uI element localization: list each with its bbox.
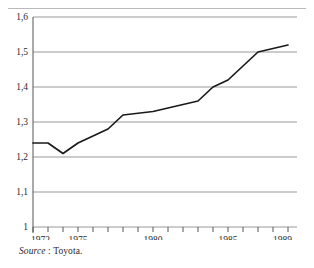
- y-axis-tick-label: 1,6: [16, 12, 28, 22]
- source-value: Toyota.: [53, 246, 82, 256]
- x-axis-tick-label: 1975: [69, 235, 88, 240]
- y-axis-tick-label: 1,3: [16, 117, 28, 127]
- y-axis-tick-label: 1,1: [16, 187, 28, 197]
- y-axis-tick-label: 1: [23, 222, 28, 232]
- x-axis-tick-label: 1989: [273, 235, 292, 240]
- line-chart-svg: 1,61,51,41,31,21,11 19721975198019851989: [0, 0, 314, 240]
- y-axis-tick-labels-group: 1,61,51,41,31,21,11: [16, 12, 28, 232]
- gridlines-group: [33, 17, 297, 227]
- chart-plot-area: 1,61,51,41,31,21,11 19721975198019851989: [0, 0, 314, 240]
- y-axis-tick-label: 1,2: [16, 152, 28, 162]
- source-label: Source: [19, 246, 46, 256]
- x-axis-tick-label: 1972: [31, 235, 50, 240]
- figure-container: 1,61,51,41,31,21,11 19721975198019851989…: [0, 0, 314, 268]
- x-axis-tick-label: 1985: [219, 235, 238, 240]
- source-note: Source : Toyota.: [19, 246, 83, 256]
- x-axis-tick-labels-group: 19721975198019851989: [31, 235, 292, 240]
- x-axis-ticks-group: [33, 227, 288, 232]
- data-series-line: [33, 45, 288, 154]
- y-axis-tick-label: 1,4: [16, 82, 28, 92]
- y-axis-tick-label: 1,5: [16, 47, 28, 57]
- x-axis-tick-label: 1980: [144, 235, 163, 240]
